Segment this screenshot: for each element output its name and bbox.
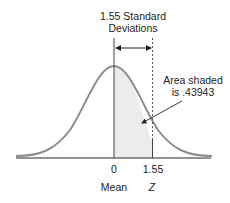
- shaded-area: [114, 66, 152, 158]
- title-line-2: Deviations: [108, 22, 157, 34]
- title-line-1: 1.55 Standard: [100, 10, 166, 22]
- axis-label-z: Z: [149, 181, 155, 193]
- annotation-line-2: is .43943: [172, 86, 215, 98]
- tick-label-1-55: 1.55: [143, 163, 163, 175]
- normal-distribution-diagram: 1.55 Standard Deviations Area shaded is …: [0, 0, 230, 203]
- axis-label-mean: Mean: [101, 181, 127, 193]
- tick-label-0: 0: [111, 163, 117, 175]
- annotation-line-1: Area shaded: [163, 74, 223, 86]
